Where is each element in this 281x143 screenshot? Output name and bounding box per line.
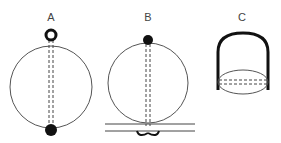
panel-c-arch (218, 33, 268, 90)
panel-c-label: C (238, 11, 246, 23)
panel-b-curl-left-icon (137, 131, 148, 135)
diagram-canvas: A B C (0, 0, 281, 143)
panel-c: C (218, 11, 268, 94)
panel-a: A (10, 11, 92, 136)
panel-b-top-dot-icon (143, 35, 153, 45)
panel-b-label: B (144, 11, 151, 23)
panel-c-ellipse (218, 70, 268, 94)
panel-a-circle (10, 46, 92, 128)
panel-a-top-ring-icon (46, 30, 56, 40)
panel-b-curl-right-icon (148, 131, 159, 135)
panel-b: B (105, 11, 195, 135)
panel-b-circle (108, 43, 188, 123)
panel-a-label: A (47, 11, 55, 23)
panel-a-bottom-dot-icon (45, 124, 57, 136)
